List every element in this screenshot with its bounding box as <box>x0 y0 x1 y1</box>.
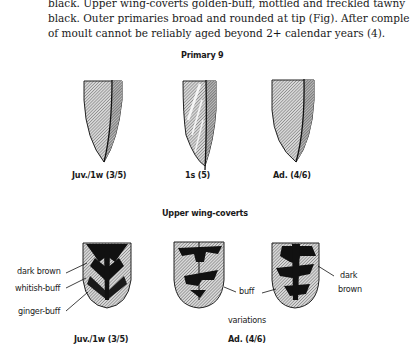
primary-label-1s: 1s (5) <box>185 170 210 180</box>
label-ginger-buff: ginger-buff <box>18 306 60 316</box>
label-whitish-buff: whitish-buff <box>15 283 60 293</box>
label-dark-brown: dark brown <box>17 266 61 276</box>
primary-feather-1s <box>183 80 216 170</box>
primary-feather-adult <box>272 79 314 162</box>
label-buff: buff <box>239 286 254 296</box>
primary-label-juv: Juv./1w (3/5) <box>72 170 126 180</box>
label-dark: dark <box>340 270 357 280</box>
primary-feather-juv <box>84 80 122 162</box>
coverts-section-title: Upper wing-coverts <box>162 208 248 218</box>
covert-label-adult: Ad. (4/6) <box>228 334 266 344</box>
primary-label-adult: Ad. (4/6) <box>273 170 311 180</box>
covert-feather-adult-2 <box>272 243 319 308</box>
label-brown: brown <box>338 284 362 294</box>
label-variations: variations <box>228 315 266 325</box>
primary-section-title: Primary 9 <box>181 50 224 60</box>
covert-feather-adult-1 <box>174 242 224 308</box>
covert-feather-juv <box>83 243 131 308</box>
covert-label-juv: Juv./1w (3/5) <box>74 334 128 344</box>
